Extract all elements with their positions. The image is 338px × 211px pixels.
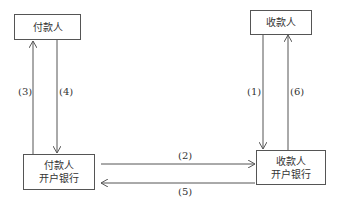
- node-payee: 收款人: [250, 10, 312, 35]
- edge-label-1: (1): [247, 86, 261, 97]
- node-payee-bank: 收款人 开户银行: [256, 150, 326, 185]
- edge-label-6: (6): [290, 86, 304, 97]
- edge-label-5: (5): [178, 186, 192, 197]
- node-payer: 付款人: [14, 14, 81, 40]
- node-payer-bank-line1: 付款人: [44, 159, 74, 172]
- node-payer-bank: 付款人 开户银行: [23, 154, 95, 190]
- node-payee-label: 收款人: [266, 16, 296, 29]
- node-payee-bank-line2: 开户银行: [271, 168, 311, 181]
- edge-label-2: (2): [178, 150, 192, 161]
- node-payer-label: 付款人: [33, 21, 63, 34]
- node-payee-bank-line1: 收款人: [276, 155, 306, 168]
- edge-label-3: (3): [18, 86, 32, 97]
- node-payer-bank-line2: 开户银行: [39, 172, 79, 185]
- edge-label-4: (4): [59, 86, 73, 97]
